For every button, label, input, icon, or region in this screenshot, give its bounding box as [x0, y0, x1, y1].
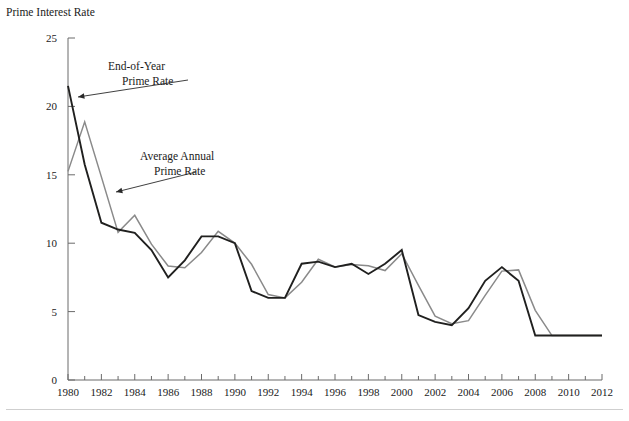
series-end-of-year-prime-rate: [68, 86, 602, 336]
x-tick-label-1980: 1980: [57, 386, 80, 398]
x-tick-label-1986: 1986: [157, 386, 180, 398]
y-tick-label-5: 5: [52, 306, 58, 318]
y-axis-ticks: 0510152025: [46, 32, 75, 386]
average-annual-annotation-line2: Prime Rate: [154, 165, 205, 177]
annotations-layer: End-of-YearPrime RateAverage AnnualPrime…: [78, 60, 214, 193]
x-tick-label-2008: 2008: [524, 386, 547, 398]
end-of-year-annotation-line2: Prime Rate: [122, 75, 173, 87]
x-axis-ticks: 1980198219841986198819901992199419961998…: [57, 374, 613, 398]
x-tick-label-2006: 2006: [491, 386, 514, 398]
end-of-year-annotation-arrowhead: [78, 93, 85, 99]
x-tick-label-1988: 1988: [191, 386, 214, 398]
y-tick-label-0: 0: [52, 374, 58, 386]
x-tick-label-1984: 1984: [124, 386, 147, 398]
x-tick-label-1996: 1996: [324, 386, 347, 398]
x-tick-label-2010: 2010: [558, 386, 581, 398]
x-tick-label-2000: 2000: [391, 386, 414, 398]
x-tick-label-2002: 2002: [424, 386, 446, 398]
footer-divider: [6, 409, 623, 410]
x-tick-label-1994: 1994: [291, 386, 314, 398]
end-of-year-annotation-line1: End-of-Year: [108, 60, 165, 72]
axes-group: [68, 38, 602, 380]
average-annual-annotation-arrowhead: [116, 188, 123, 194]
y-axis-title-label: Prime Interest Rate: [6, 6, 95, 18]
x-tick-label-1990: 1990: [224, 386, 247, 398]
x-tick-label-1998: 1998: [357, 386, 380, 398]
x-tick-label-1982: 1982: [90, 386, 112, 398]
average-annual-annotation: Average AnnualPrime Rate: [116, 150, 214, 193]
y-tick-label-20: 20: [46, 100, 58, 112]
y-tick-label-15: 15: [46, 169, 58, 181]
x-tick-label-2012: 2012: [591, 386, 613, 398]
chart-figure: Prime Interest Rate 0510152025 198019821…: [0, 0, 629, 421]
x-tick-label-1992: 1992: [257, 386, 279, 398]
end-of-year-annotation: End-of-YearPrime Rate: [78, 60, 188, 99]
prime-interest-rate-line-chart: Prime Interest Rate 0510152025 198019821…: [0, 0, 629, 421]
y-tick-label-10: 10: [46, 237, 58, 249]
y-axis-title: Prime Interest Rate: [6, 6, 95, 18]
x-tick-label-2004: 2004: [458, 386, 481, 398]
average-annual-annotation-line1: Average Annual: [140, 150, 214, 163]
data-series-layer: [68, 86, 602, 336]
y-tick-label-25: 25: [46, 32, 58, 44]
